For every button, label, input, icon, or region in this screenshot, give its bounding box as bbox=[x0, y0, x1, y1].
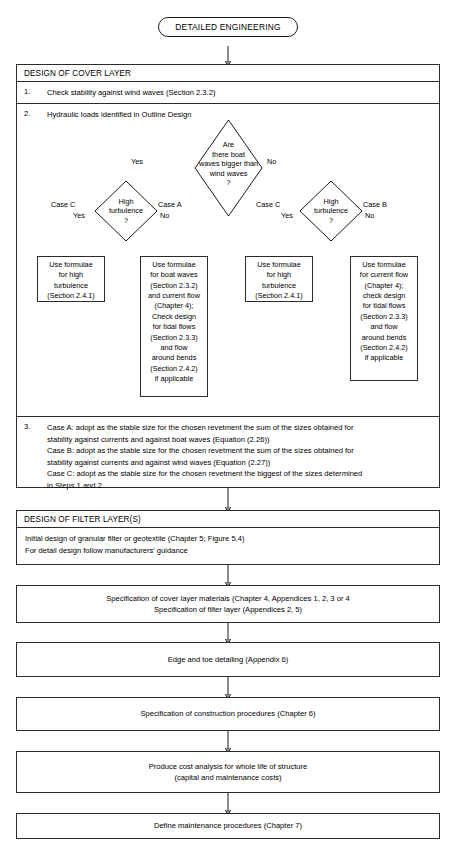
main-decision-no-label: No bbox=[267, 157, 276, 166]
decision-boat-vs-wind-waves: Are there boat waves bigger than wind wa… bbox=[195, 120, 262, 216]
start-terminator: DETAILED ENGINEERING bbox=[158, 17, 298, 37]
design-of-filter-layer-panel: DESIGN OF FILTER LAYER(S) Initial design… bbox=[16, 510, 440, 565]
step-box-cost-analysis: Produce cost analysis for whole life of … bbox=[16, 751, 440, 793]
formula-box-current-flow: Use formulae for current flow (Chapter 4… bbox=[350, 256, 418, 381]
right-turbulence-no-label: No bbox=[365, 211, 374, 220]
formula-box-left-high-turbulence: Use formulae for high turbulence (Sectio… bbox=[37, 256, 105, 302]
flowchart-page: DETAILED ENGINEERING DESIGN OF COVER LAY… bbox=[0, 0, 459, 841]
cover-layer-title: DESIGN OF COVER LAYER bbox=[17, 65, 439, 82]
filter-layer-title: DESIGN OF FILTER LAYER(S) bbox=[17, 511, 439, 528]
step-1-number: 1. bbox=[24, 87, 30, 96]
decision-high-turbulence-left: High turbulence ? bbox=[95, 181, 157, 241]
decision-high-turbulence-right: High turbulence ? bbox=[300, 181, 362, 241]
step-3-number: 3. bbox=[24, 422, 30, 431]
left-case-c-label: Case C bbox=[51, 200, 75, 209]
left-case-a-label: Case A bbox=[158, 200, 182, 209]
right-case-b-label: Case B bbox=[363, 200, 387, 209]
filter-layer-body-row: Initial design of granular filter or geo… bbox=[17, 528, 439, 565]
cover-layer-step-1-row: 1. Check stability against wind waves (S… bbox=[17, 82, 439, 104]
step-box-edge-toe-detailing: Edge and toe detailing (Appendix 6) bbox=[16, 642, 440, 677]
step-box-construction-procedures: Specification of construction procedures… bbox=[16, 697, 440, 731]
right-case-c-label: Case C bbox=[256, 200, 280, 209]
left-turbulence-no-label: No bbox=[160, 211, 169, 220]
filter-layer-title-row: DESIGN OF FILTER LAYER(S) bbox=[17, 511, 439, 528]
step-box-maintenance-procedures: Define maintenance procedures (Chapter 7… bbox=[16, 813, 440, 839]
cover-layer-step-3-row: 3. Case A: adopt as the stable size for … bbox=[17, 417, 439, 488]
cover-layer-title-row: DESIGN OF COVER LAYER bbox=[17, 65, 439, 82]
start-terminator-label: DETAILED ENGINEERING bbox=[175, 22, 280, 32]
step-3-text: Case A: adopt as the stable size for the… bbox=[17, 417, 439, 495]
filter-layer-body: Initial design of granular filter or geo… bbox=[17, 528, 439, 562]
step-1-text: Check stability against wind waves (Sect… bbox=[17, 82, 439, 104]
main-decision-yes-label: Yes bbox=[131, 157, 143, 166]
left-turbulence-yes-label: Yes bbox=[73, 211, 85, 220]
formula-box-boat-waves-current-flow: Use formulae for boat waves (Section 2.3… bbox=[140, 256, 208, 397]
formula-box-right-high-turbulence: Use formulae for high turbulence (Sectio… bbox=[245, 256, 313, 302]
right-turbulence-yes-label: Yes bbox=[281, 211, 293, 220]
step-2-number: 2. bbox=[24, 109, 30, 118]
step-box-specification-materials: Specification of cover layer materials (… bbox=[16, 585, 440, 623]
